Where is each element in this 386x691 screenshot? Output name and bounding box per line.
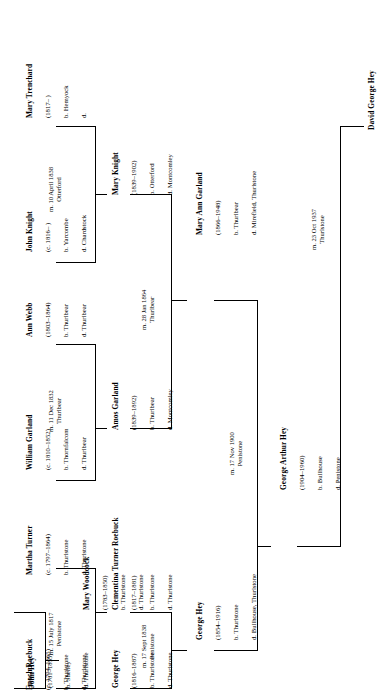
connector: [95, 344, 96, 481]
connector: [340, 126, 364, 127]
marriage-date: m. 10 April 1838: [47, 167, 55, 212]
person-dates: (1839–1892): [130, 395, 137, 430]
connector: [95, 568, 96, 689]
person-name: Amos Garland: [111, 382, 120, 430]
person-birthplace: b. Bullhouse: [316, 456, 323, 490]
person-dates: (1816–1887): [130, 653, 137, 688]
marriage-place: Penistone: [148, 625, 156, 668]
connector: [171, 300, 187, 301]
person-name: John Hey: [27, 657, 36, 688]
marriage-date: m. 23 Oct 1937: [310, 209, 318, 250]
connector: [45, 612, 46, 689]
marriage-garland-knight: m. 28 Jan 1864 Thurlbear: [140, 330, 180, 347]
connector: [45, 660, 59, 661]
person-name: William Garland: [25, 415, 34, 470]
person-name: Mary Ann Garland: [195, 172, 204, 235]
person-name: David George Hey: [367, 70, 376, 130]
marriage-date: m. 17 Sept 1838: [140, 625, 148, 668]
person-deathplace: d. Bullhouse, Thurlstone: [250, 574, 257, 640]
person-birthplace: b. Otterford: [148, 163, 155, 195]
marriage-place: Otterford: [55, 167, 63, 212]
connector: [257, 300, 258, 651]
person-name: George Arthur Hey: [279, 427, 288, 490]
person-amos-garland: Amos Garland (1839–1892) b. Thurlbear d.…: [104, 430, 152, 502]
person-dates: (1817– ): [44, 95, 51, 118]
connector: [214, 300, 258, 301]
person-dates: (1839–1902): [130, 160, 137, 195]
connector: [130, 688, 172, 689]
person-deathplace: d. Thurlstone: [166, 574, 173, 610]
connector: [56, 688, 96, 689]
connector: [14, 612, 46, 613]
person-deathplace: d. Mirefield, Thurlstone: [250, 171, 257, 235]
pedigree-chart: Mary Trenchard (1817– ) b. Hemyock d. Jo…: [0, 0, 386, 691]
person-deathplace: d.: [80, 113, 87, 118]
marriage-hey-roebuck: m. 17 Sept 1838 Penistone: [140, 668, 183, 685]
marriage-place: Thurlstone: [318, 209, 326, 250]
marriage-date: m. 15 July 1817: [47, 613, 55, 656]
person-george-hey-1854: George Hey (1854–1916) b. Thurlstone d. …: [188, 640, 254, 691]
person-name: Ann Webb: [25, 302, 34, 337]
marriage-place: Penistone: [55, 613, 63, 656]
connector: [56, 568, 96, 569]
person-name: John Knight: [25, 211, 34, 252]
person-mary-ann-garland: Mary Ann Garland (1866–1948) b. Thurlbea…: [188, 235, 252, 307]
connector: [56, 262, 96, 263]
marriage-place: Thurlbear: [148, 290, 156, 330]
person-name: Mary Trenchard: [25, 64, 34, 118]
person-birthplace: b. Thurlstone: [232, 604, 239, 640]
marriage-arthur-hey-spouse: m. 23 Oct 1937 Thurlstone: [310, 250, 351, 267]
person-dates: (1854–1916): [214, 605, 221, 640]
person-birthplace: b. Hemyock: [62, 85, 69, 118]
connector: [257, 546, 271, 547]
connector: [14, 688, 46, 689]
person-name: Clementina Turner Roebuck: [111, 517, 120, 610]
person-name: George Hey: [195, 601, 204, 640]
person-dates: (1817–1881): [130, 575, 137, 610]
person-mary-knight: Mary Knight (1839–1902) b. Otterford d. …: [104, 195, 147, 267]
marriage-place: Penistone: [236, 432, 244, 475]
marriage-knight-trenchard: m. 10 April 1838 Otterford: [47, 212, 92, 229]
marriage-place: Thurlbear: [55, 390, 63, 432]
person-david-george-hey: David George Hey: [360, 130, 386, 148]
person-birthplace: b. Thurlstone: [148, 574, 155, 610]
connector: [171, 194, 172, 429]
connector: [297, 546, 341, 547]
person-dates: (c. 1797–1864): [44, 534, 51, 575]
connector: [95, 612, 107, 613]
marriage-hey-garland: m. 17 Nov 1900 Penistone: [228, 475, 271, 492]
connector: [130, 428, 172, 429]
person-dates: (1803–1864): [44, 302, 51, 337]
person-deathplace: d. Montcomley: [166, 154, 173, 195]
connector: [56, 126, 96, 127]
connector: [95, 194, 107, 195]
person-deathplace: d. Thurlbear: [80, 304, 87, 337]
person-birthplace: b. Thurlbear: [232, 202, 239, 235]
person-george-arthur-hey: George Arthur Hey (1904–1960) b. Bullhou…: [272, 490, 335, 562]
person-dates: (1904–1960): [298, 455, 305, 490]
marriage-date: m. 17 Nov 1900: [228, 432, 236, 475]
connector: [130, 194, 172, 195]
connector: [214, 650, 258, 651]
marriage-garland-webb: m. 11 Dec 1832 Thurlbear: [47, 432, 89, 449]
person-name: Mary Woodcock: [82, 556, 91, 610]
person-mary-trenchard: Mary Trenchard (1817– ) b. Hemyock d.: [18, 118, 72, 190]
connector: [171, 650, 187, 651]
person-birthplace: b. Thurlbear: [148, 397, 155, 430]
marriage-roebuck-turner: m. 15 July 1817 Penistone: [47, 655, 90, 672]
person-name: Martha Turner: [25, 525, 34, 575]
person-name: George Hey: [111, 649, 120, 688]
connector: [130, 612, 172, 613]
person-dates: (1866–1948): [214, 200, 221, 235]
connector: [56, 344, 96, 345]
connector: [340, 126, 341, 547]
marriage-date: m. 28 Jan 1864: [140, 290, 148, 330]
marriage-date: m. 11 Dec 1832: [47, 390, 55, 432]
person-birthplace: b. Thurlbear: [62, 304, 69, 337]
person-birthplace: b. Thurlstone: [62, 539, 69, 575]
person-name: Mary Knight: [111, 152, 120, 195]
connector: [95, 428, 107, 429]
connector: [56, 480, 96, 481]
